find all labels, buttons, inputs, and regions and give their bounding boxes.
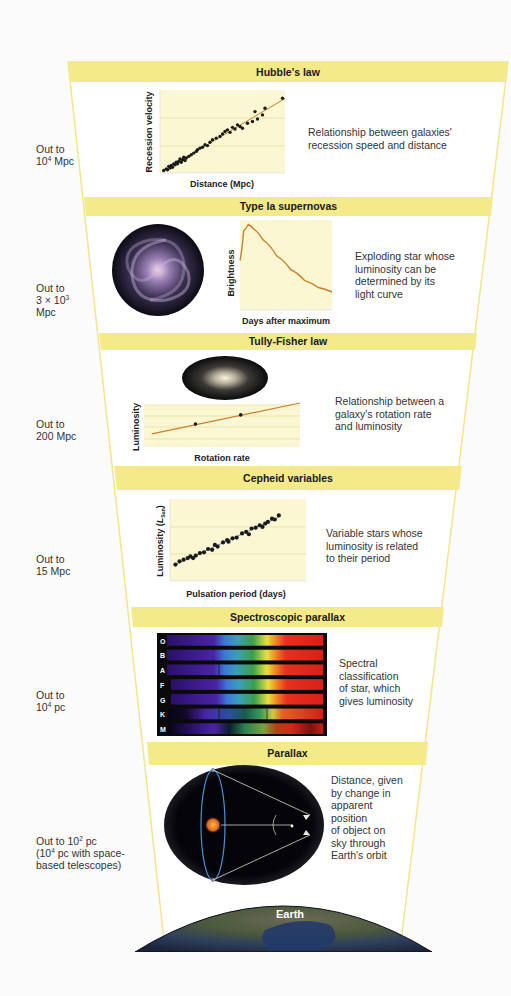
star-icon bbox=[291, 825, 294, 828]
data-point bbox=[266, 520, 270, 524]
spectrum-band-k bbox=[167, 709, 323, 720]
data-point bbox=[206, 144, 209, 147]
y-axis-label: Recession velocity bbox=[144, 91, 154, 172]
spectral-class-label: B bbox=[160, 652, 165, 659]
spectral-class-label: A bbox=[160, 667, 165, 674]
data-point bbox=[261, 113, 264, 116]
range-label-hubble: Out to 104 Mpc bbox=[36, 143, 74, 167]
range-unit: Mpc bbox=[36, 306, 69, 318]
range-label-cepheid: Out to 15 Mpc bbox=[36, 553, 70, 577]
section-title-hubble: Hubble's law bbox=[68, 66, 508, 78]
cepheid-chart: Pulsation period (days) Luminosity (LSun… bbox=[150, 497, 310, 603]
data-point bbox=[228, 131, 231, 134]
data-point bbox=[211, 138, 214, 141]
data-point bbox=[221, 132, 224, 135]
range-line-2: (104 pc with space- bbox=[36, 847, 125, 859]
y-axis-label-main: Luminosity ( bbox=[155, 523, 165, 577]
data-point bbox=[263, 107, 266, 110]
range-line-1: Out to 102 pc bbox=[36, 835, 125, 847]
data-point bbox=[182, 558, 186, 562]
data-point bbox=[206, 547, 210, 551]
spectral-class-label: F bbox=[160, 682, 165, 689]
plot-area bbox=[144, 405, 300, 447]
data-point bbox=[171, 165, 174, 168]
section-title-cepheid: Cepheid variables bbox=[114, 472, 462, 484]
data-point bbox=[216, 544, 220, 548]
y-axis-label: Luminosity (LSun) bbox=[155, 505, 166, 576]
plot-area bbox=[240, 220, 332, 310]
sun-icon bbox=[205, 817, 221, 833]
description-hubble: Relationship between galaxies'recession … bbox=[308, 126, 452, 151]
data-point bbox=[208, 141, 211, 144]
data-point bbox=[215, 136, 218, 139]
y-axis-label-sub: Sun bbox=[160, 508, 166, 517]
data-point bbox=[235, 535, 239, 539]
hubble-chart: Distance (Mpc) Recession velocity bbox=[140, 88, 290, 190]
x-axis-label: Pulsation period (days) bbox=[186, 589, 286, 599]
y-axis-label-end: ) bbox=[155, 505, 165, 508]
section-title-spectroscopic: Spectroscopic parallax bbox=[131, 611, 444, 623]
data-point bbox=[233, 127, 236, 130]
x-axis-label: Days after maximum bbox=[242, 316, 330, 326]
range-label-tully-fisher: Out to 200 Mpc bbox=[36, 418, 76, 442]
data-point bbox=[256, 117, 259, 120]
x-axis-label: Rotation rate bbox=[194, 453, 250, 463]
data-point bbox=[253, 110, 256, 113]
section-title-supernova: Type Ia supernovas bbox=[84, 200, 493, 212]
data-point bbox=[239, 413, 243, 417]
data-point bbox=[202, 550, 206, 554]
range-value: 104 pc bbox=[36, 701, 65, 713]
supernova-light-curve-chart: Days after maximum Brightness bbox=[222, 218, 342, 330]
range-prefix: Out to bbox=[36, 689, 65, 701]
spectrum-band-a bbox=[167, 664, 323, 675]
data-point bbox=[226, 540, 230, 544]
range-label-spectroscopic: Out to 104 pc bbox=[36, 689, 65, 713]
range-value: 104 Mpc bbox=[36, 155, 74, 167]
range-prefix: Out to bbox=[36, 282, 69, 294]
spectrum-band-m bbox=[167, 723, 323, 734]
data-point bbox=[194, 422, 198, 426]
data-point bbox=[250, 526, 254, 530]
description-cepheid: Variable stars whoseluminosity is relate… bbox=[326, 527, 423, 565]
data-point bbox=[198, 551, 202, 555]
data-point bbox=[230, 536, 234, 540]
data-point bbox=[173, 563, 177, 567]
data-point bbox=[241, 126, 244, 129]
spectral-class-label: K bbox=[160, 711, 165, 718]
x-axis-label: Distance (Mpc) bbox=[190, 179, 254, 189]
spectral-class-label: O bbox=[160, 638, 166, 645]
data-point bbox=[218, 135, 221, 138]
edge-on-galaxy-image bbox=[182, 356, 268, 400]
data-point bbox=[221, 540, 225, 544]
plot-area bbox=[170, 499, 306, 581]
data-point bbox=[260, 525, 264, 529]
description-parallax: Distance, givenby change inapparentposit… bbox=[331, 774, 403, 862]
range-label-parallax: Out to 102 pc (104 pc with space- based … bbox=[36, 835, 125, 871]
data-point bbox=[254, 526, 258, 530]
data-point bbox=[281, 97, 284, 100]
spectrum-band-o bbox=[167, 635, 323, 646]
description-supernova: Exploding star whoseluminosity can bedet… bbox=[355, 250, 455, 300]
description-tully-fisher: Relationship between agalaxy's rotation … bbox=[335, 395, 444, 433]
section-title-parallax: Parallax bbox=[147, 747, 428, 759]
spectral-class-label: M bbox=[160, 726, 166, 733]
y-axis-label: Brightness bbox=[226, 249, 236, 296]
description-spectroscopic: Spectralclassificationof star, whichgive… bbox=[339, 657, 413, 707]
data-point bbox=[177, 559, 181, 563]
spectra-bands: OBAFGKM bbox=[157, 633, 327, 736]
range-prefix: Out to bbox=[36, 418, 76, 430]
page-bottom bbox=[0, 952, 511, 996]
range-value: 3 × 103 bbox=[36, 294, 69, 306]
range-label-supernova: Out to 3 × 103 Mpc bbox=[36, 282, 69, 318]
spectral-class-label: G bbox=[160, 697, 166, 704]
range-value: 200 Mpc bbox=[36, 430, 76, 442]
range-line-3: based telescopes) bbox=[36, 859, 125, 871]
y-axis-label: Luminosity bbox=[131, 403, 141, 451]
data-point bbox=[240, 531, 244, 535]
parallax-diagram bbox=[164, 765, 324, 885]
data-point bbox=[277, 513, 281, 517]
range-prefix: Out to bbox=[36, 553, 70, 565]
spectrum-band-f bbox=[171, 679, 323, 690]
earth-label: Earth bbox=[276, 908, 304, 920]
data-point bbox=[194, 553, 198, 557]
